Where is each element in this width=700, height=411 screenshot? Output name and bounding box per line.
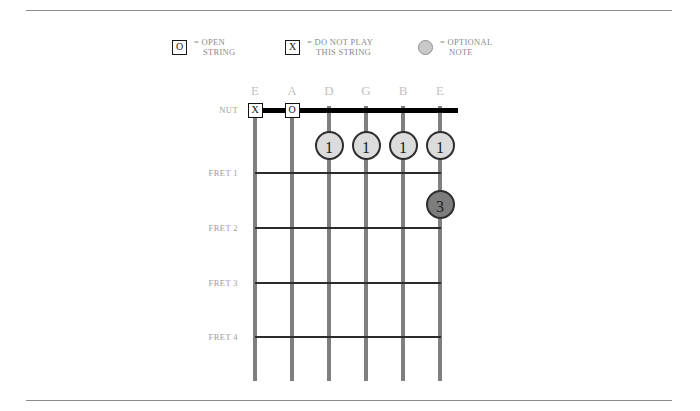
string-label-2: A [282, 83, 302, 99]
string-label-4: G [356, 83, 376, 99]
fret-line-2 [255, 227, 441, 229]
mute-string-marker-1: X [248, 103, 263, 118]
string-label-5: B [393, 83, 413, 99]
finger-dot-string6-fret2: 3 [426, 190, 455, 219]
string-label-6: E [430, 83, 450, 99]
fret-label-1: FRET 1 [178, 168, 238, 178]
fret-line-4 [255, 336, 441, 338]
fret-line-3 [255, 282, 441, 284]
chord-diagram-page: O = OPEN STRING X = DO NOT PLAY THIS STR… [0, 0, 700, 411]
finger-dot-string4-fret1: 1 [352, 131, 381, 160]
open-string-marker-2: O [285, 103, 300, 118]
string-label-3: D [319, 83, 339, 99]
guitar-string-1 [253, 106, 257, 381]
nut-bar [249, 108, 458, 113]
fret-label-2: FRET 2 [178, 223, 238, 233]
fret-label-3: FRET 3 [178, 278, 238, 288]
fret-line-1 [255, 172, 441, 174]
bottom-divider [26, 400, 672, 401]
fret-label-0: NUT [178, 105, 238, 115]
string-label-1: E [245, 83, 265, 99]
finger-dot-string5-fret1: 1 [389, 131, 418, 160]
finger-dot-string3-fret1: 1 [315, 131, 344, 160]
finger-dot-string6-fret1: 1 [426, 131, 455, 160]
fret-label-4: FRET 4 [178, 332, 238, 342]
guitar-string-2 [290, 106, 294, 381]
fretboard: EADGBENUTFRET 1FRET 2FRET 3FRET 4XO11113 [0, 0, 700, 411]
